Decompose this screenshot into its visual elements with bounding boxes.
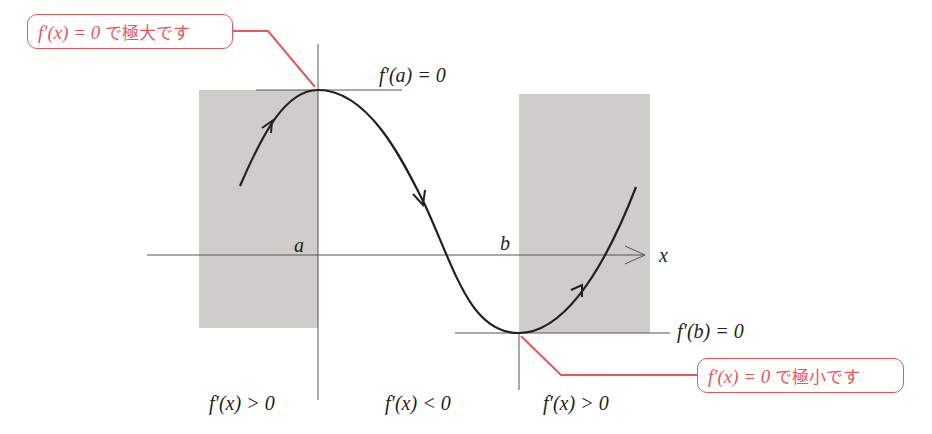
shaded-region-right (519, 94, 650, 333)
callout-minimum: f′(x) = 0 で極小です (697, 358, 904, 393)
x-axis-label: x (659, 244, 668, 267)
leader-line-max (232, 31, 315, 87)
region-label-middle: f′(x) < 0 (385, 392, 451, 415)
callout-maximum: f′(x) = 0 で極大です (27, 14, 233, 49)
point-b-label: b (500, 232, 510, 255)
shaded-region-left (199, 90, 318, 328)
callout-maximum-expr: f′(x) = 0 (38, 22, 100, 43)
region-label-right: f′(x) > 0 (543, 392, 609, 415)
callout-minimum-expr: f′(x) = 0 (708, 366, 770, 387)
point-a-label: a (294, 234, 304, 257)
region-label-left: f′(x) > 0 (209, 392, 275, 415)
callout-minimum-text: で極小です (775, 367, 860, 387)
tangent-label-a: f′(a) = 0 (379, 64, 446, 87)
callout-maximum-text: で極大です (105, 23, 190, 43)
tangent-label-b: f′(b) = 0 (677, 320, 744, 343)
leader-line-min (521, 336, 698, 375)
